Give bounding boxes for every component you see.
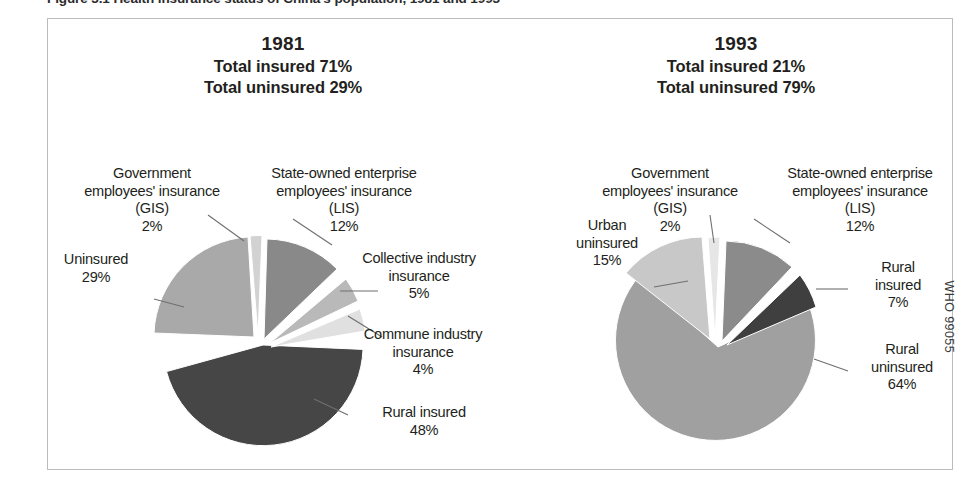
label-lis-1993: State-owned enterprise employees' insura…: [762, 165, 958, 235]
panel-1993-heading: 1993 Total insured 21% Total uninsured 7…: [518, 33, 954, 97]
label-rural-insured-1981-value: 48%: [354, 422, 494, 440]
label-lis-1993-line1: State-owned enterprise: [762, 165, 958, 183]
panel-1981-total-insured: Total insured 71%: [48, 57, 518, 76]
chart-panel-1981: 1981 Total insured 71% Total uninsured 2…: [48, 19, 518, 469]
label-lis-1993-value: 12%: [762, 218, 958, 236]
label-commune-1981: Commune industry insurance 4%: [330, 326, 516, 379]
chart-panel-1993: 1993 Total insured 21% Total uninsured 7…: [518, 19, 954, 469]
label-rural-uninsured-1993: Rural uninsured 64%: [852, 341, 952, 394]
label-rural-insured-1993: Rural insured 7%: [852, 259, 944, 312]
label-lis-1993-line3: (LIS): [762, 200, 958, 218]
label-rural-uninsured-1993-line1: Rural: [852, 341, 952, 359]
label-gis-1993-line1: Government: [580, 165, 760, 183]
label-urban-uninsured-1993-line1: Urban: [552, 217, 662, 235]
label-gis-1993-line2: employees' insurance: [580, 183, 760, 201]
figure-frame: 1981 Total insured 71% Total uninsured 2…: [47, 18, 953, 470]
label-lis-1981-line2: employees' insurance: [246, 183, 442, 201]
label-uninsured-1981-value: 29%: [38, 269, 154, 287]
label-commune-1981-value: 4%: [330, 361, 516, 379]
label-collective-1981-line2: insurance: [330, 268, 508, 286]
label-collective-1981-line1: Collective industry: [330, 250, 508, 268]
label-rural-insured-1993-value: 7%: [852, 294, 944, 312]
label-rural-uninsured-1993-value: 64%: [852, 376, 952, 394]
label-gis-1981-line3: (GIS): [62, 200, 242, 218]
panel-1981-year: 1981: [48, 33, 518, 55]
panel-1981-heading: 1981 Total insured 71% Total uninsured 2…: [48, 33, 518, 97]
label-collective-1981-value: 5%: [330, 285, 508, 303]
pie-slice-uninsured-1981: [154, 237, 254, 337]
panel-1981-total-uninsured: Total uninsured 29%: [48, 78, 518, 97]
panel-1993-year: 1993: [518, 33, 954, 55]
label-collective-1981: Collective industry insurance 5%: [330, 250, 508, 303]
label-uninsured-1981-line1: Uninsured: [38, 251, 154, 269]
label-rural-insured-1981: Rural insured 48%: [354, 404, 494, 439]
label-lis-1981-line1: State-owned enterprise: [246, 165, 442, 183]
label-gis-1981-value: 2%: [62, 218, 242, 236]
label-gis-1981-line2: employees' insurance: [62, 183, 242, 201]
label-urban-uninsured-1993-value: 15%: [552, 252, 662, 270]
panel-1993-total-uninsured: Total uninsured 79%: [518, 78, 954, 97]
label-urban-uninsured-1993-line2: uninsured: [552, 235, 662, 253]
label-uninsured-1981: Uninsured 29%: [38, 251, 154, 286]
who-credit: WHO 99055: [942, 281, 956, 353]
label-rural-insured-1993-line1: Rural: [852, 259, 944, 277]
figure-title: Figure 3.1 Health insurance status of Ch…: [47, 0, 927, 6]
label-rural-insured-1993-line2: insured: [852, 277, 944, 295]
label-rural-insured-1981-line1: Rural insured: [354, 404, 494, 422]
label-lis-1981: State-owned enterprise employees' insura…: [246, 165, 442, 235]
label-urban-uninsured-1993: Urban uninsured 15%: [552, 217, 662, 270]
label-gis-1981-line1: Government: [62, 165, 242, 183]
panel-1993-total-insured: Total insured 21%: [518, 57, 954, 76]
label-commune-1981-line1: Commune industry: [330, 326, 516, 344]
label-lis-1993-line2: employees' insurance: [762, 183, 958, 201]
label-commune-1981-line2: insurance: [330, 344, 516, 362]
label-rural-uninsured-1993-line2: uninsured: [852, 359, 952, 377]
label-gis-1981: Government employees' insurance (GIS) 2%: [62, 165, 242, 235]
label-lis-1981-line3: (LIS): [246, 200, 442, 218]
label-lis-1981-value: 12%: [246, 218, 442, 236]
pie-slice-gis-1993: [708, 237, 720, 338]
label-gis-1993-line3: (GIS): [580, 200, 760, 218]
